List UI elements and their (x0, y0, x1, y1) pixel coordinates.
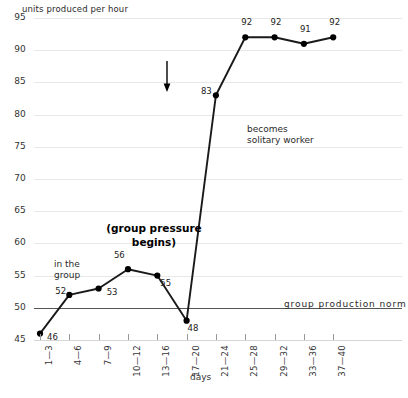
reference-line-label: group production norm (284, 299, 407, 309)
x-tick-label: 37—40 (337, 345, 347, 377)
y-tick-label: 45 (2, 334, 26, 344)
x-tick-mark (40, 334, 41, 340)
x-tick-mark (275, 334, 276, 340)
x-axis-title: days (190, 372, 211, 382)
x-tick-label: 25—28 (249, 345, 259, 377)
x-tick-label: 33—36 (308, 345, 318, 377)
y-tick-label: 70 (2, 173, 26, 183)
x-tick-mark (187, 334, 188, 340)
annotation-group-pressure-begins: (group pressure begins) (96, 222, 212, 249)
y-tick-label: 50 (2, 302, 26, 312)
x-tick-mark (69, 334, 70, 340)
x-tick-mark (304, 334, 305, 340)
plot-area: 4652535655488392929192 (34, 18, 402, 340)
y-tick-label: 80 (2, 109, 26, 119)
annotation-in-the-group: in the group (54, 259, 80, 282)
x-tick-mark (216, 334, 217, 340)
x-tick-label: 29—32 (279, 345, 289, 377)
annotation-becomes-solitary-worker: becomes solitary worker (247, 124, 314, 147)
x-tick-label: 10—12 (132, 345, 142, 377)
production-line-chart: units produced per hour 4652535655488392… (0, 0, 408, 398)
x-tick-label: 13—16 (161, 345, 171, 377)
y-axis-title: units produced per hour (22, 4, 128, 14)
y-tick-label: 75 (2, 141, 26, 151)
y-tick-label: 55 (2, 270, 26, 280)
y-tick-label: 85 (2, 76, 26, 86)
x-tick-label: 1—3 (44, 345, 54, 365)
x-tick-label: 21—24 (220, 345, 230, 377)
x-tick-mark (333, 334, 334, 340)
x-tick-label: 7—9 (103, 345, 113, 365)
x-tick-mark (245, 334, 246, 340)
y-tick-label: 90 (2, 44, 26, 54)
x-tick-mark (157, 334, 158, 340)
x-tick-mark (128, 334, 129, 340)
y-tick-label: 65 (2, 205, 26, 215)
y-tick-label: 60 (2, 237, 26, 247)
x-tick-label: 4—6 (73, 345, 83, 365)
x-axis-line (34, 340, 402, 341)
y-tick-label: 95 (2, 12, 26, 22)
group-pressure-arrow-icon (34, 18, 402, 340)
x-tick-mark (99, 334, 100, 340)
